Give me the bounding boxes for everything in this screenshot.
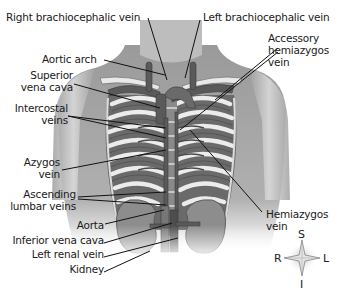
compass-right: R [274, 252, 282, 265]
label-intercostal-veins-line1: Intercostal [10, 103, 68, 114]
label-hemiazygos-vein-line1: Hemiazygos [266, 209, 328, 220]
label-aortic-arch: Aortic arch [42, 54, 97, 65]
label-azygos-vein-line2: vein [10, 169, 60, 180]
label-inferior-vena-cava: Inferior vena cava [4, 235, 104, 246]
label-superior-vena-cava-line2: vena cava [18, 82, 73, 93]
label-superior-vena-cava-line1: Superior [28, 70, 73, 81]
compass-superior: S [298, 228, 305, 241]
label-ascending-lumbar-veins-line1: Ascending [4, 189, 76, 200]
label-left-brachiocephalic-vein: Left brachiocephalic vein [203, 12, 329, 23]
label-accessory-hemiazygos-line2: hemiazygos [268, 45, 329, 56]
label-azygos-vein-line1: Azygos [10, 157, 60, 168]
label-aorta: Aorta [40, 220, 104, 231]
label-ascending-lumbar-veins-line2: lumbar veins [4, 201, 76, 212]
label-accessory-hemiazygos-line3: vein [268, 57, 289, 68]
label-left-renal-vein: Left renal vein [4, 249, 104, 260]
venous-system-diagram: Right brachiocephalic vein Left brachioc… [0, 0, 342, 295]
label-kidney: Kidney [4, 264, 104, 275]
label-hemiazygos-vein-line2: vein [266, 221, 287, 232]
compass-inferior: I [300, 278, 303, 291]
label-intercostal-veins-line2: veins [10, 115, 68, 126]
compass-left: L [323, 252, 329, 265]
label-right-brachiocephalic-vein: Right brachiocephalic vein [6, 12, 140, 23]
label-accessory-hemiazygos-line1: Accessory [268, 33, 319, 44]
